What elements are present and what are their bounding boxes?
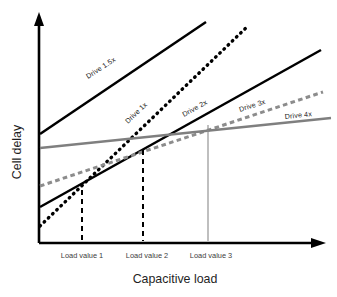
curve-label-drive-1x: Drive 1x — [124, 101, 149, 126]
y-axis-arrowhead — [34, 12, 44, 26]
curve-labels-group: Drive 1.5x Drive 1x Drive 2x Drive 3x Dr… — [85, 56, 313, 126]
chart-canvas: Drive 1.5x Drive 1x Drive 2x Drive 3x Dr… — [0, 0, 337, 297]
curve-label-drive-1-5x: Drive 1.5x — [85, 56, 118, 81]
curve-drive-4x — [40, 118, 331, 148]
cell-delay-vs-capacitive-load-figure: Drive 1.5x Drive 1x Drive 2x Drive 3x Dr… — [0, 0, 337, 297]
curve-drive-1-5x — [40, 22, 206, 134]
x-tick-label-load-value-1: Load value 1 — [61, 251, 103, 260]
x-tick-labels-group: Load value 1 Load value 2 Load value 3 — [61, 251, 232, 260]
x-tick-label-load-value-2: Load value 2 — [126, 251, 168, 260]
curves-group — [40, 22, 331, 226]
curve-drive-2x — [40, 50, 321, 207]
x-tick-label-load-value-3: Load value 3 — [190, 251, 232, 260]
y-axis-title: Cell delay — [10, 124, 24, 179]
x-axis-arrowhead — [311, 238, 326, 248]
x-axis-title: Capacitive load — [133, 272, 218, 286]
